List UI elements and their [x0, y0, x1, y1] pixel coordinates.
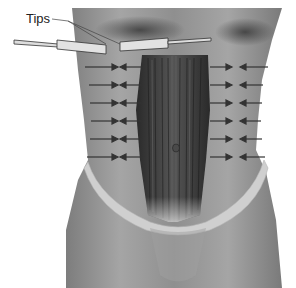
navel [173, 144, 180, 152]
rectus-abdominis-muscle [136, 55, 210, 222]
tips-label: Tips [26, 11, 50, 26]
torso-diagram [0, 0, 296, 288]
